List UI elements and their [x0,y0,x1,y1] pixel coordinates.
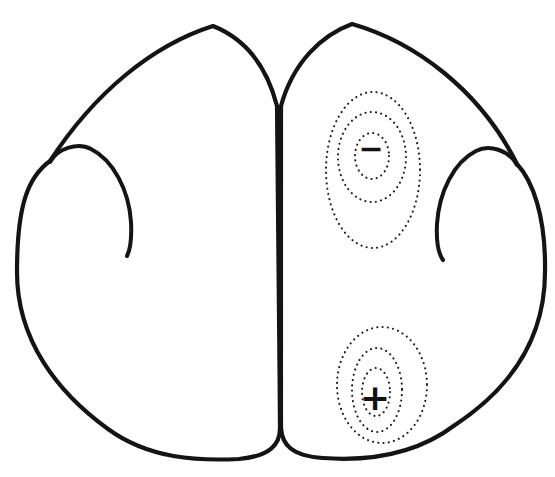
positive-polarity-label: + [360,377,390,418]
left-temporal-curve [50,146,131,256]
left-hemisphere-outline [17,26,280,460]
negative-polarity-label: − [358,131,383,166]
positive-field-contours: + [337,327,427,443]
negative-field-contours: − [326,92,420,248]
right-hemisphere-outline [281,24,545,459]
brain-top-view-diagram: − + [0,0,555,477]
figure-canvas: − + [0,0,555,477]
right-temporal-curve [437,148,517,260]
